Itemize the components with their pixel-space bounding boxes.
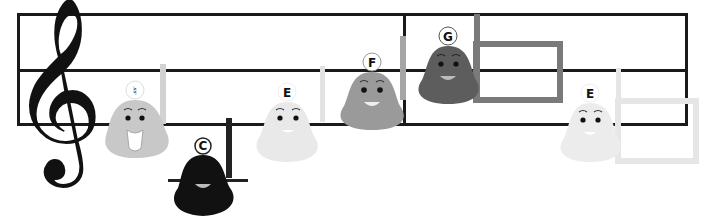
bell-label: G	[443, 30, 453, 44]
bell-label: E	[586, 87, 594, 101]
bell-label: C	[199, 139, 208, 153]
bell-label: F	[368, 56, 376, 70]
bell-note: E	[558, 68, 708, 168]
bell-icon: C	[168, 118, 248, 218]
treble-clef-icon: 𝄞	[10, 8, 103, 166]
bell-label: E	[283, 86, 291, 100]
bell-icon: E	[252, 66, 332, 166]
bell-icon: G	[418, 14, 568, 114]
bell-icon: E	[558, 68, 708, 168]
bell-note: C	[168, 118, 248, 218]
bell-note: F	[336, 36, 416, 136]
bell-label: ♮	[133, 84, 137, 98]
bell-icon: F	[336, 36, 416, 136]
music-staff-illustration: 𝄞 ♮ C E	[0, 0, 719, 220]
bell-note: E	[252, 66, 332, 166]
bell-note: G	[418, 14, 568, 114]
